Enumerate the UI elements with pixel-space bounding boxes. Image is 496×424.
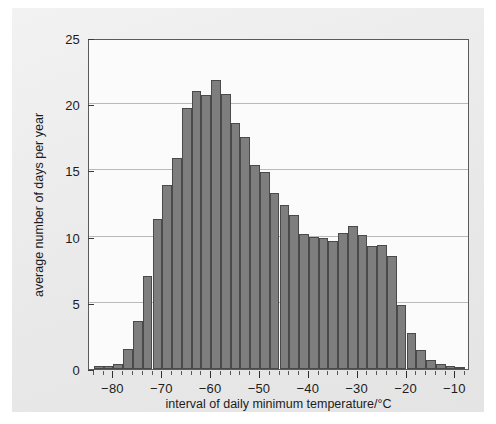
histogram-bar: [280, 205, 290, 369]
histogram-bar: [387, 256, 397, 369]
histogram-bar: [123, 349, 133, 369]
y-tick-label: 0: [44, 363, 80, 378]
x-minor-tick-mark: [445, 371, 446, 375]
histogram-bar: [426, 360, 436, 369]
x-axis-title: interval of daily minimum temperature/°C: [88, 397, 469, 411]
x-minor-tick-mark: [239, 371, 240, 375]
histogram-bar: [153, 219, 163, 369]
x-major-tick-mark: [357, 371, 358, 378]
x-minor-tick-mark: [181, 371, 182, 375]
x-major-tick-mark: [161, 371, 162, 378]
histogram-bar: [143, 276, 153, 369]
x-minor-tick-mark: [152, 371, 153, 375]
x-minor-tick-mark: [376, 371, 377, 375]
histogram-bar: [182, 108, 192, 369]
x-minor-tick-mark: [386, 371, 387, 375]
histogram-bar: [270, 193, 280, 369]
histogram-bar: [133, 321, 143, 369]
y-tick-mark: [88, 238, 94, 239]
y-tick-mark: [88, 171, 94, 172]
x-minor-tick-mark: [396, 371, 397, 375]
x-tick-label: −20: [394, 381, 417, 396]
histogram-bar: [436, 364, 446, 369]
x-minor-tick-mark: [288, 371, 289, 375]
x-minor-tick-mark: [269, 371, 270, 375]
histogram-bar: [397, 305, 407, 369]
x-minor-tick-mark: [435, 371, 436, 375]
x-tick-label: −30: [345, 381, 368, 396]
y-tick-label: 15: [44, 164, 80, 179]
histogram-bar: [377, 245, 387, 369]
histogram-bar: [250, 165, 260, 369]
bars-layer: [89, 40, 468, 369]
x-tick-label: −60: [199, 381, 222, 396]
histogram-bar: [367, 246, 377, 369]
x-minor-tick-mark: [200, 371, 201, 375]
y-axis-title-label: average number of days per year: [32, 112, 46, 296]
x-major-tick-mark: [308, 371, 309, 378]
histogram-bar: [221, 94, 231, 369]
histogram-bar: [104, 366, 114, 369]
x-minor-tick-mark: [122, 371, 123, 375]
y-axis-title: average number of days per year: [30, 39, 48, 370]
x-minor-tick-mark: [425, 371, 426, 375]
histogram-bar: [446, 366, 456, 369]
y-tick-label: 20: [44, 98, 80, 113]
x-major-tick-mark: [259, 371, 260, 378]
x-minor-tick-mark: [415, 371, 416, 375]
histogram-bar: [299, 234, 309, 369]
histogram-bar: [455, 367, 465, 369]
x-major-tick-mark: [112, 371, 113, 378]
x-minor-tick-mark: [279, 371, 280, 375]
x-minor-tick-mark: [327, 371, 328, 375]
y-tick-label: 25: [44, 32, 80, 47]
histogram-bar: [338, 233, 348, 369]
x-minor-tick-mark: [249, 371, 250, 375]
histogram-bar: [231, 123, 241, 369]
histogram-bar: [162, 185, 172, 369]
histogram-bar: [240, 137, 250, 369]
y-tick-mark: [88, 105, 94, 106]
x-minor-tick-mark: [318, 371, 319, 375]
histogram-bar: [416, 350, 426, 369]
histogram-bar: [201, 95, 211, 369]
x-tick-label: −80: [101, 381, 124, 396]
histogram-bar: [348, 226, 358, 369]
x-minor-tick-mark: [220, 371, 221, 375]
x-minor-tick-mark: [347, 371, 348, 375]
x-minor-tick-mark: [366, 371, 367, 375]
x-minor-tick-mark: [298, 371, 299, 375]
plot-inner: [89, 40, 468, 369]
histogram-figure: average number of days per year 05101520…: [0, 0, 496, 424]
histogram-bar: [211, 80, 221, 369]
histogram-bar: [328, 241, 338, 369]
x-minor-tick-mark: [337, 371, 338, 375]
y-tick-mark: [88, 304, 94, 305]
x-minor-tick-mark: [103, 371, 104, 375]
x-tick-label: −40: [296, 381, 319, 396]
histogram-bar: [94, 366, 104, 369]
histogram-bar: [358, 235, 368, 369]
x-minor-tick-mark: [132, 371, 133, 375]
histogram-bar: [309, 237, 319, 369]
figure-panel: average number of days per year 05101520…: [12, 8, 484, 412]
histogram-bar: [319, 238, 329, 369]
x-major-tick-mark: [406, 371, 407, 378]
x-minor-tick-mark: [464, 371, 465, 375]
histogram-bar: [289, 215, 299, 369]
histogram-bar: [407, 333, 417, 369]
x-tick-label: −70: [150, 381, 173, 396]
y-tick-mark: [88, 39, 94, 40]
histogram-bar: [113, 364, 123, 369]
y-tick-label: 5: [44, 296, 80, 311]
x-minor-tick-mark: [191, 371, 192, 375]
plot-area: [88, 39, 469, 370]
x-major-tick-mark: [210, 371, 211, 378]
x-major-tick-mark: [454, 371, 455, 378]
histogram-bar: [260, 172, 270, 369]
x-minor-tick-mark: [171, 371, 172, 375]
histogram-bar: [192, 91, 202, 369]
x-minor-tick-mark: [93, 371, 94, 375]
x-minor-tick-mark: [230, 371, 231, 375]
x-tick-label: −10: [443, 381, 466, 396]
